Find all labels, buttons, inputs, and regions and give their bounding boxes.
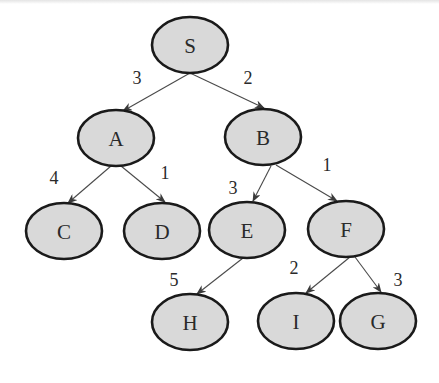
node-label: G <box>370 310 385 334</box>
edge-weight-label: 1 <box>161 163 170 183</box>
node-label: F <box>340 218 352 242</box>
arrow-icon <box>306 257 350 293</box>
arrow-icon <box>355 257 381 292</box>
node-label: B <box>256 126 270 150</box>
node-g: G <box>340 293 416 349</box>
node-s: S <box>152 17 228 73</box>
node-label: A <box>108 127 124 151</box>
arrow-icon <box>190 73 264 108</box>
node-b: B <box>225 109 301 165</box>
edge-b-f: 1 <box>276 155 337 201</box>
edge-s-b: 2 <box>190 68 264 108</box>
node-c: C <box>26 203 102 259</box>
edge-s-a: 3 <box>123 68 190 111</box>
diagram-canvas: 324131523 SABCDEFHIG <box>0 0 439 383</box>
node-label: C <box>57 220 71 244</box>
edges-layer: 324131523 <box>50 68 403 294</box>
tree-diagram: 324131523 SABCDEFHIG <box>0 0 439 383</box>
nodes-layer: SABCDEFHIG <box>26 17 416 350</box>
edge-weight-label: 3 <box>133 68 142 88</box>
edge-f-i: 2 <box>290 257 351 293</box>
edge-e-h: 5 <box>170 258 244 294</box>
edge-f-g: 3 <box>355 257 403 292</box>
edge-weight-label: 2 <box>244 68 253 88</box>
arrow-icon <box>253 166 271 201</box>
node-label: E <box>241 219 254 243</box>
edge-b-e: 3 <box>229 166 272 201</box>
node-label: H <box>182 311 197 335</box>
edge-weight-label: 4 <box>50 168 59 188</box>
node-f: F <box>308 201 384 257</box>
clipped-text-strip <box>0 0 439 4</box>
edge-weight-label: 5 <box>170 270 179 290</box>
node-label: S <box>184 34 196 58</box>
edge-weight-label: 1 <box>323 155 332 175</box>
node-e: E <box>209 202 285 258</box>
arrow-icon <box>121 166 165 202</box>
node-label: D <box>154 220 169 244</box>
arrow-icon <box>68 166 111 203</box>
node-i: I <box>258 293 334 349</box>
edge-weight-label: 3 <box>394 270 403 290</box>
node-label: I <box>293 310 300 334</box>
edge-weight-label: 3 <box>229 178 238 198</box>
node-a: A <box>78 110 154 166</box>
edge-a-c: 4 <box>50 166 112 203</box>
edge-weight-label: 2 <box>290 258 299 278</box>
edge-a-d: 1 <box>121 163 170 202</box>
arrow-icon <box>197 258 243 294</box>
node-h: H <box>152 294 228 350</box>
node-d: D <box>124 203 200 259</box>
